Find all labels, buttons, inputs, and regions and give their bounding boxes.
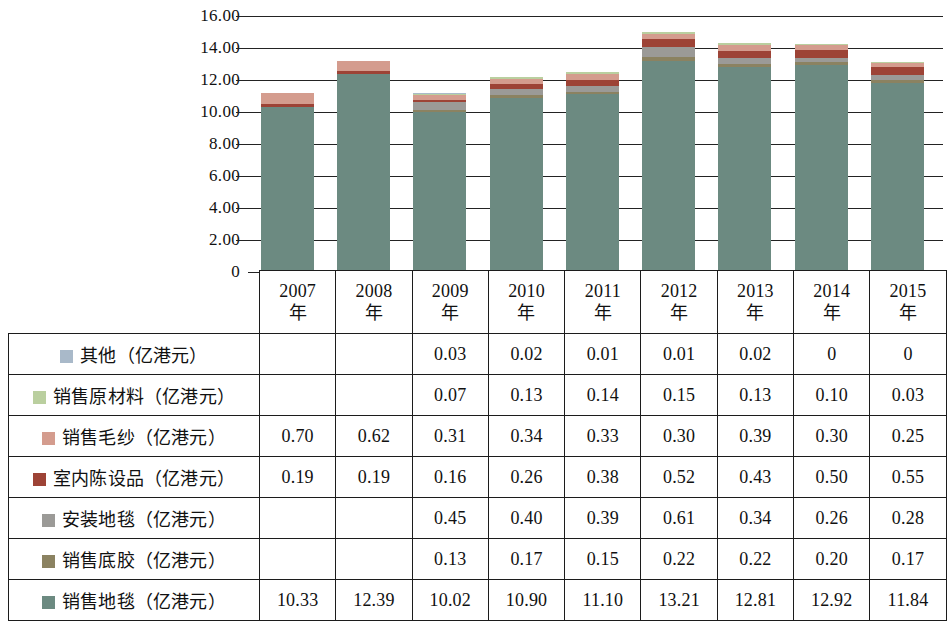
series-label-cell: 安装地毯（亿港元） — [9, 498, 260, 539]
value-cell: 0 — [870, 334, 946, 375]
value-cell: 0.43 — [717, 457, 793, 498]
bar-segment — [261, 107, 314, 272]
series-label-cell: 销售地毯（亿港元） — [9, 580, 260, 621]
year-number: 2009 — [413, 280, 488, 303]
bar-segment — [642, 39, 695, 47]
bar-segment — [566, 94, 619, 272]
bar-segment — [795, 50, 848, 58]
table-row: 销售毛纱（亿港元）0.700.620.310.340.330.300.390.3… — [9, 416, 947, 457]
value-cell: 0.25 — [870, 416, 946, 457]
bar-segment — [871, 67, 924, 76]
value-cell: 0.39 — [565, 498, 641, 539]
bar-segment — [490, 98, 543, 272]
value-cell: 0.13 — [412, 539, 488, 580]
bar-segment — [337, 61, 390, 71]
year-suffix: 年 — [260, 302, 335, 325]
value-cell — [260, 498, 336, 539]
year-suffix: 年 — [718, 302, 793, 325]
value-cell: 0.62 — [336, 416, 412, 457]
y-axis-tick-label: 14.00 — [0, 39, 248, 56]
year-suffix: 年 — [413, 302, 488, 325]
value-cell: 0.15 — [641, 375, 717, 416]
value-cell: 0.01 — [641, 334, 717, 375]
value-cell: 0.16 — [412, 457, 488, 498]
value-cell: 0.03 — [870, 375, 946, 416]
value-cell: 0.10 — [794, 375, 870, 416]
year-header-row: 2007年2008年2009年2010年2011年2012年2013年2014年… — [9, 271, 947, 334]
year-suffix: 年 — [565, 302, 640, 325]
table-row: 其他（亿港元）0.030.020.010.010.0200 — [9, 334, 947, 375]
bar-segment — [413, 102, 466, 109]
value-cell: 0 — [794, 334, 870, 375]
value-cell — [336, 334, 412, 375]
table-row: 销售地毯（亿港元）10.3312.3910.0210.9011.1013.211… — [9, 580, 947, 621]
bar-segment — [795, 65, 848, 272]
value-cell: 0.17 — [870, 539, 946, 580]
year-number: 2008 — [336, 280, 411, 303]
value-cell: 0.26 — [488, 457, 564, 498]
value-cell — [336, 375, 412, 416]
value-cell: 0.34 — [717, 498, 793, 539]
y-axis-tick-label: 4.00 — [0, 199, 248, 216]
year-column-header: 2011年 — [565, 271, 641, 334]
y-axis-tickmark — [236, 112, 248, 113]
bar-segment — [871, 83, 924, 272]
value-cell: 0.13 — [717, 375, 793, 416]
value-cell — [260, 375, 336, 416]
value-cell: 0.15 — [565, 539, 641, 580]
value-cell: 0.17 — [488, 539, 564, 580]
bar-2012年 — [642, 32, 695, 272]
year-suffix: 年 — [336, 302, 411, 325]
year-column-header: 2010年 — [488, 271, 564, 334]
value-cell — [336, 498, 412, 539]
value-cell: 0.40 — [488, 498, 564, 539]
series-label-text: 其他（亿港元） — [80, 346, 207, 366]
y-axis-tick-label: 2.00 — [0, 231, 248, 248]
bar-segment — [718, 51, 771, 58]
year-suffix: 年 — [641, 302, 716, 325]
series-label-text: 室内陈设品（亿港元） — [53, 469, 235, 489]
value-cell: 0.19 — [260, 457, 336, 498]
gridline — [248, 16, 943, 17]
year-suffix: 年 — [870, 302, 945, 325]
table-row: 安装地毯（亿港元）0.450.400.390.610.340.260.28 — [9, 498, 947, 539]
bar-2011年 — [566, 72, 619, 272]
stacked-bar-chart: 16.0014.0012.0010.008.006.004.002.000 — [0, 0, 951, 290]
value-cell: 11.10 — [565, 580, 641, 621]
year-number: 2014 — [794, 280, 869, 303]
y-axis-tick-label: 16.00 — [0, 7, 248, 24]
table-corner-cell — [9, 271, 260, 334]
series-label-text: 销售底胶（亿港元） — [62, 551, 226, 571]
bar-segment — [337, 74, 390, 272]
value-cell: 10.33 — [260, 580, 336, 621]
y-axis-tickmark — [236, 240, 248, 241]
value-cell: 0.26 — [794, 498, 870, 539]
legend-swatch-icon — [42, 555, 55, 568]
series-label-cell: 销售毛纱（亿港元） — [9, 416, 260, 457]
value-cell: 0.30 — [641, 416, 717, 457]
legend-swatch-icon — [60, 350, 73, 363]
y-axis-tickmark — [236, 176, 248, 177]
value-cell: 0.07 — [412, 375, 488, 416]
value-cell: 0.14 — [565, 375, 641, 416]
table-row: 室内陈设品（亿港元）0.190.190.160.260.380.520.430.… — [9, 457, 947, 498]
bar-segment — [642, 61, 695, 272]
year-column-header: 2013年 — [717, 271, 793, 334]
value-cell: 12.39 — [336, 580, 412, 621]
table-row: 销售底胶（亿港元）0.130.170.150.220.220.200.17 — [9, 539, 947, 580]
series-label-cell: 销售原材料（亿港元） — [9, 375, 260, 416]
y-axis-tick-label: 10.00 — [0, 103, 248, 120]
year-column-header: 2014年 — [794, 271, 870, 334]
y-axis: 16.0014.0012.0010.008.006.004.002.000 — [0, 0, 248, 290]
value-cell: 0.22 — [641, 539, 717, 580]
value-cell: 13.21 — [641, 580, 717, 621]
year-number: 2012 — [641, 280, 716, 303]
series-label-text: 销售地毯（亿港元） — [62, 592, 226, 612]
table-row: 销售原材料（亿港元）0.070.130.140.150.130.100.03 — [9, 375, 947, 416]
value-cell: 0.38 — [565, 457, 641, 498]
value-cell: 0.30 — [794, 416, 870, 457]
series-label-text: 销售毛纱（亿港元） — [62, 428, 226, 448]
series-label-text: 安装地毯（亿港元） — [62, 510, 226, 530]
year-column-header: 2008年 — [336, 271, 412, 334]
bar-segment — [718, 67, 771, 272]
